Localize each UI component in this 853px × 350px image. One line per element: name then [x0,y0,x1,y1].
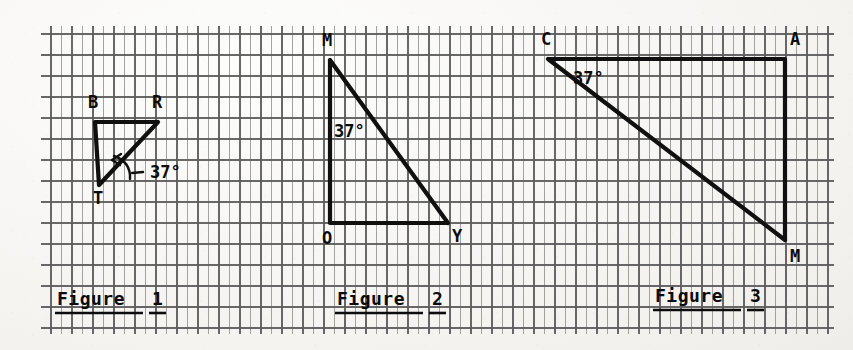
figure-1-vertex-label-b: B [88,92,98,112]
graph-paper-worksheet: B R T 37° M O Y 37° C A M 37° Figure 1 [0,0,853,350]
figure-1-caption-number: 1 [152,288,163,309]
figure-1-group[interactable]: B R T 37° [88,92,181,208]
figure-3-group[interactable]: C A M 37° [541,29,800,266]
figure-1-angle-leader-line [132,172,143,173]
figure-3-caption-number: 3 [750,285,761,306]
figure-2-caption-word: Figure [337,288,405,309]
figure-3-vertex-label-m: M [790,246,800,266]
figure-1-angle-label: 37° [150,162,181,182]
figure-1-vertex-label-t: T [93,188,103,208]
figure-2-caption-number: 2 [432,288,443,309]
figure-2-vertex-label-m: M [322,30,332,50]
figure-3-vertex-label-a: A [790,29,800,49]
figure-2-vertex-label-o: O [322,228,332,248]
figure-3-vertex-label-c: C [541,29,551,49]
figures-layer: B R T 37° M O Y 37° C A M 37° Figure 1 [0,0,853,350]
figure-3-angle-label: 37° [573,68,604,88]
figure-2-group[interactable]: M O Y 37° [322,30,463,248]
caption-figure-2: Figure 2 [335,288,446,313]
figure-1-triangle [95,122,158,185]
caption-figure-3: Figure 3 [653,285,764,310]
figure-2-triangle [330,60,448,223]
figure-1-caption-word: Figure [57,288,125,309]
figure-3-caption-word: Figure [655,285,723,306]
figure-1-vertex-label-r: R [152,92,163,112]
figure-2-vertex-label-y: Y [452,226,463,246]
caption-figure-1: Figure 1 [55,288,166,313]
figure-2-angle-label: 37° [334,121,365,141]
